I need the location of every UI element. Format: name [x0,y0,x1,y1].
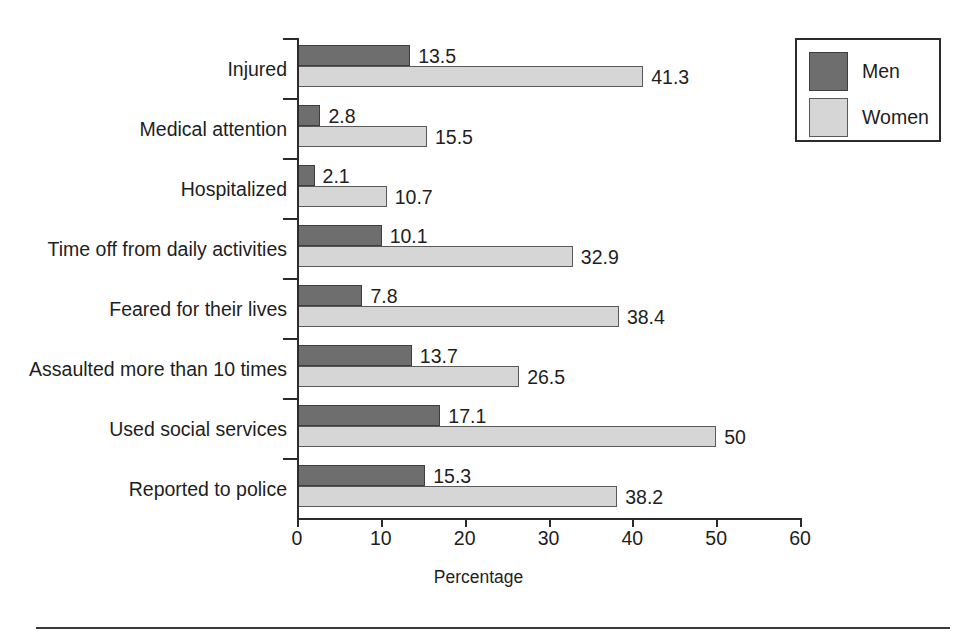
category-label: Reported to police [129,480,287,500]
x-axis-title: Percentage [0,567,957,588]
bar-value-label: 13.5 [418,47,456,67]
bar-men [297,405,440,426]
bar-value-label: 10.1 [390,227,428,247]
x-axis-tick-label: 20 [454,529,476,549]
legend-label-men: Men [862,62,900,82]
legend-label-women: Women [862,108,929,128]
y-axis-tick [283,98,297,100]
x-axis-tick-label: 40 [621,529,643,549]
bar-value-label: 2.8 [328,107,355,127]
x-axis-tick [297,518,299,527]
category-label: Used social services [109,420,287,440]
bar-women [297,186,387,207]
bar-men [297,285,362,306]
x-axis-tick-label: 30 [538,529,560,549]
x-axis-tick [716,518,718,527]
bar-value-label: 26.5 [527,368,565,388]
bar-women [297,486,617,507]
bar-value-label: 2.1 [323,167,350,187]
x-axis-tick [465,518,467,527]
y-axis-tick [283,338,297,340]
category-label: Medical attention [140,120,287,140]
bar-men [297,345,412,366]
y-axis-tick [283,458,297,460]
category-label: Injured [227,60,287,80]
y-axis-tick [283,278,297,280]
bar-value-label: 32.9 [581,248,619,268]
bar-women [297,306,619,327]
y-axis-tick [283,158,297,160]
bar-women [297,426,716,447]
bar-value-label: 17.1 [448,407,486,427]
bar-men [297,465,425,486]
x-axis-tick [800,518,802,527]
bar-women [297,366,519,387]
bar-value-label: 38.4 [627,308,665,328]
bar-men [297,165,315,186]
bar-value-label: 13.7 [420,347,458,367]
bar-value-label: 15.3 [433,467,471,487]
legend-swatch-men-icon [809,52,848,91]
x-axis-tick [381,518,383,527]
legend-item-women: Women [809,98,929,137]
x-axis-tick-label: 60 [789,529,811,549]
bar-men [297,45,410,66]
chart-page: Percentage Men Women Injured13.541.3Medi… [0,0,957,642]
bar-value-label: 7.8 [370,287,397,307]
bar-women [297,246,573,267]
x-axis-tick [632,518,634,527]
x-axis-tick-label: 0 [292,529,303,549]
x-axis-tick-label: 10 [370,529,392,549]
category-label: Hospitalized [181,180,287,200]
bar-men [297,105,320,126]
legend-item-men: Men [809,52,900,91]
category-label: Time off from daily activities [48,240,287,260]
legend-swatch-women-icon [809,98,848,137]
bar-value-label: 10.7 [395,188,433,208]
category-label: Assaulted more than 10 times [29,360,287,380]
chart-legend: Men Women [795,38,941,142]
bar-men [297,225,382,246]
y-axis-tick [283,218,297,220]
category-label: Feared for their lives [109,300,287,320]
x-axis-tick-label: 50 [705,529,727,549]
bar-women [297,66,643,87]
bar-value-label: 50 [724,428,746,448]
y-axis-line [297,38,299,519]
bar-women [297,126,427,147]
bar-value-label: 41.3 [651,68,689,88]
bar-value-label: 15.5 [435,128,473,148]
y-axis-tick [283,38,297,40]
y-axis-tick [283,398,297,400]
bottom-divider [36,627,950,629]
x-axis-tick [549,518,551,527]
bar-value-label: 38.2 [625,488,663,508]
